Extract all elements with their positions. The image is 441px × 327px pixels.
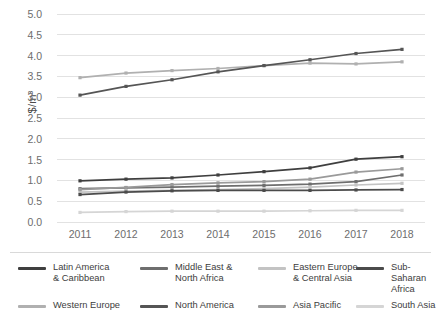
data-point-marker xyxy=(262,64,265,67)
data-point-marker xyxy=(170,183,173,186)
data-point-marker xyxy=(308,166,311,169)
series-line xyxy=(80,62,402,78)
legend-item[interactable]: Latin America & Caribbean xyxy=(18,262,109,284)
data-point-marker xyxy=(216,189,219,192)
legend-item-label: Eastern Europe & Central Asia xyxy=(293,262,358,284)
y-tick-1-0: 1.0 xyxy=(8,175,42,185)
data-point-marker xyxy=(262,170,265,173)
data-point-marker xyxy=(308,58,311,61)
data-point-marker xyxy=(78,211,81,214)
data-point-marker xyxy=(308,61,311,64)
data-point-marker xyxy=(308,209,311,212)
data-point-marker xyxy=(216,185,219,188)
data-point-marker xyxy=(262,210,265,213)
data-point-marker xyxy=(308,185,311,188)
y-tick-0-5: 0.5 xyxy=(8,196,42,206)
data-point-marker xyxy=(78,94,81,97)
chart-legend: Latin America & CaribbeanMiddle East & N… xyxy=(0,252,441,327)
legend-item-label: Middle East & North Africa xyxy=(175,262,232,284)
legend-swatch-icon xyxy=(258,305,286,308)
legend-swatch-icon xyxy=(140,305,168,308)
x-tick-2014: 2014 xyxy=(195,228,241,240)
legend-item-label: South Asia xyxy=(391,300,435,311)
data-point-marker xyxy=(124,85,127,88)
data-point-marker xyxy=(170,69,173,72)
data-point-marker xyxy=(170,78,173,81)
legend-swatch-icon xyxy=(18,267,46,270)
series-line xyxy=(80,157,402,181)
legend-item-label: Asia Pacific xyxy=(293,300,341,311)
y-tick-4-5: 4.5 xyxy=(8,30,42,40)
data-point-marker xyxy=(354,188,357,191)
data-point-marker xyxy=(400,167,403,170)
data-point-marker xyxy=(216,210,219,213)
data-point-marker xyxy=(124,178,127,181)
y-tick-1-5: 1.5 xyxy=(8,155,42,165)
y-tick-2-5: 2.5 xyxy=(8,113,42,123)
data-point-marker xyxy=(400,182,403,185)
y-tick-3-0: 3.0 xyxy=(8,92,42,102)
data-point-marker xyxy=(216,67,219,70)
data-point-marker xyxy=(124,210,127,213)
legend-item[interactable]: Eastern Europe & Central Asia xyxy=(258,262,358,284)
chart-screenshot: $/m³ 5.04.54.03.53.02.52.01.51.00.50.0 2… xyxy=(0,0,441,327)
data-point-marker xyxy=(354,62,357,65)
data-point-marker xyxy=(124,190,127,193)
data-point-marker xyxy=(216,173,219,176)
x-tick-2015: 2015 xyxy=(241,228,287,240)
legend-item[interactable]: Middle East & North Africa xyxy=(140,262,232,284)
legend-swatch-icon xyxy=(258,267,286,270)
legend-item-label: North America xyxy=(175,300,234,311)
line-chart: $/m³ 5.04.54.03.53.02.52.01.51.00.50.0 2… xyxy=(0,0,441,248)
data-point-marker xyxy=(354,52,357,55)
y-tick-2-0: 2.0 xyxy=(8,134,42,144)
y-tick-4-0: 4.0 xyxy=(8,51,42,61)
data-point-marker xyxy=(400,60,403,63)
data-point-marker xyxy=(354,170,357,173)
data-point-marker xyxy=(216,70,219,73)
data-point-marker xyxy=(78,193,81,196)
data-point-marker xyxy=(308,183,311,186)
data-point-marker xyxy=(354,209,357,212)
data-point-marker xyxy=(354,180,357,183)
data-point-marker xyxy=(124,186,127,189)
x-tick-2011: 2011 xyxy=(57,228,103,240)
legend-item-label: Latin America & Caribbean xyxy=(53,262,109,284)
data-point-marker xyxy=(78,76,81,79)
legend-item[interactable]: Asia Pacific xyxy=(258,300,341,311)
data-point-marker xyxy=(262,180,265,183)
legend-swatch-icon xyxy=(356,267,384,270)
x-tick-2013: 2013 xyxy=(149,228,195,240)
x-tick-2017: 2017 xyxy=(333,228,379,240)
legend-item[interactable]: North America xyxy=(140,300,234,311)
legend-item[interactable]: Western Europe xyxy=(18,300,120,311)
series-line xyxy=(80,190,402,195)
data-point-marker xyxy=(170,210,173,213)
legend-item[interactable]: South Asia xyxy=(356,300,435,311)
data-point-marker xyxy=(400,155,403,158)
data-point-marker xyxy=(400,209,403,212)
legend-item[interactable]: Sub-Saharan Africa xyxy=(356,262,441,296)
data-point-marker xyxy=(308,189,311,192)
data-point-marker xyxy=(216,181,219,184)
data-point-marker xyxy=(170,176,173,179)
legend-item-label: Sub-Saharan Africa xyxy=(391,262,441,296)
data-point-marker xyxy=(78,188,81,191)
legend-divider xyxy=(10,252,431,253)
plot-svg xyxy=(57,14,425,222)
data-point-marker xyxy=(170,189,173,192)
series-line xyxy=(80,210,402,212)
legend-swatch-icon xyxy=(18,305,46,308)
data-point-marker xyxy=(262,184,265,187)
data-point-marker xyxy=(400,188,403,191)
legend-swatch-icon xyxy=(140,267,168,270)
data-point-marker xyxy=(354,183,357,186)
plot-area xyxy=(57,14,425,222)
data-point-marker xyxy=(262,189,265,192)
y-tick-5-0: 5.0 xyxy=(8,9,42,19)
legend-swatch-icon xyxy=(356,305,384,308)
data-point-marker xyxy=(308,178,311,181)
x-tick-2018: 2018 xyxy=(379,228,425,240)
x-tick-2012: 2012 xyxy=(103,228,149,240)
x-tick-2016: 2016 xyxy=(287,228,333,240)
